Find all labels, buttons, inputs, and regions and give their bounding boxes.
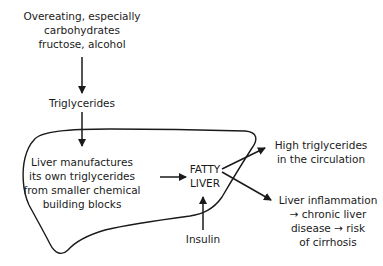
node-triglycerides-line-1: Triglycerides: [49, 96, 115, 110]
arrow-fatty-liver-to-high-triglycerides: [222, 148, 265, 169]
node-triglycerides: Triglycerides: [49, 96, 115, 110]
node-liver-manufactures-line-3: from smaller chemical: [23, 183, 140, 197]
node-liver-inflammation-line-4: of cirrhosis: [279, 235, 378, 249]
node-overeating-line-2: carbohydrates: [23, 23, 140, 37]
node-insulin: Insulin: [186, 232, 220, 246]
node-liver-inflammation-line-2: → chronic liver: [279, 207, 378, 221]
node-overeating-line-1: Overeating, especially: [23, 9, 140, 23]
node-fatty-liver-line-2: LIVER: [190, 176, 221, 190]
node-liver-manufactures-line-4: building blocks: [23, 197, 140, 211]
node-fatty-liver: FATTY LIVER: [190, 162, 221, 190]
node-liver-inflammation: Liver inflammation → chronic liver disea…: [279, 193, 378, 249]
node-insulin-line-1: Insulin: [186, 232, 220, 246]
fatty-liver-diagram: Overeating, especially carbohydrates fru…: [0, 0, 383, 266]
node-fatty-liver-line-1: FATTY: [190, 162, 221, 176]
arrow-fatty-liver-to-inflammation: [222, 172, 271, 200]
node-high-triglycerides-line-2: in the circulation: [275, 152, 368, 166]
node-liver-manufactures-line-1: Liver manufactures: [23, 155, 140, 169]
node-liver-manufactures: Liver manufactures its own triglycerides…: [23, 155, 140, 211]
node-liver-inflammation-line-1: Liver inflammation: [279, 193, 378, 207]
node-overeating: Overeating, especially carbohydrates fru…: [23, 9, 140, 51]
node-liver-inflammation-line-3: disease → risk: [279, 221, 378, 235]
node-high-triglycerides: High triglycerides in the circulation: [275, 138, 368, 166]
node-overeating-line-3: fructose, alcohol: [23, 37, 140, 51]
node-high-triglycerides-line-1: High triglycerides: [275, 138, 368, 152]
node-liver-manufactures-line-2: its own triglycerides: [23, 169, 140, 183]
